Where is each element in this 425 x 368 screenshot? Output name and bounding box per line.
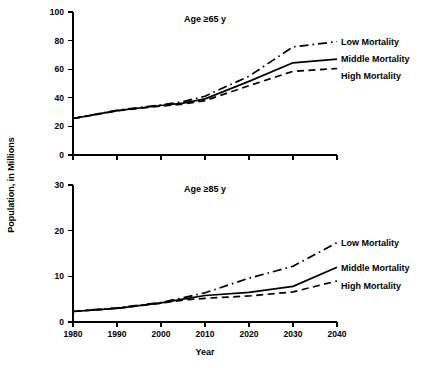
series-line-middle-mortality-top xyxy=(73,59,337,118)
figure-container: Population, in Millions Age ≥65 y 0 20 4… xyxy=(0,0,425,368)
panel-age-65: Age ≥65 y 0 20 40 60 80 100 xyxy=(50,7,410,160)
x-ticks-top xyxy=(73,155,337,160)
series-label-high-mortality-bottom: High Mortality xyxy=(341,281,401,291)
x-tick-label: 1980 xyxy=(64,329,83,339)
series-line-high-mortality-top xyxy=(73,69,337,119)
panel-title-age-85: Age ≥85 y xyxy=(184,184,226,194)
x-tick-label: 2030 xyxy=(284,329,303,339)
y-axis-title: Population, in Millions xyxy=(6,137,16,233)
y-tick-label: 100 xyxy=(50,7,64,17)
x-tick-label: 1990 xyxy=(108,329,127,339)
two-panel-line-chart: Population, in Millions Age ≥65 y 0 20 4… xyxy=(0,0,425,368)
series-label-high-mortality-top: High Mortality xyxy=(341,71,401,81)
y-tick-label: 30 xyxy=(55,180,65,190)
x-axis-title: Year xyxy=(195,347,215,357)
y-tick-labels-top: 0 20 40 60 80 100 xyxy=(50,7,64,160)
y-ticks-bottom xyxy=(68,185,73,322)
x-tick-label: 2010 xyxy=(196,329,215,339)
y-tick-label: 20 xyxy=(55,121,65,131)
x-ticks-bottom xyxy=(73,322,337,327)
y-tick-label: 40 xyxy=(55,93,65,103)
y-tick-label: 60 xyxy=(55,64,65,74)
panel-age-85: Age ≥85 y 0 10 20 30 xyxy=(55,180,410,357)
series-label-middle-mortality-top: Middle Mortality xyxy=(341,54,410,64)
series-label-middle-mortality-bottom: Middle Mortality xyxy=(341,263,410,273)
y-tick-labels-bottom: 0 10 20 30 xyxy=(55,180,65,327)
x-tick-label: 2020 xyxy=(240,329,259,339)
series-label-low-mortality-top: Low Mortality xyxy=(341,37,399,47)
x-tick-label: 2000 xyxy=(152,329,171,339)
series-line-middle-mortality-bottom xyxy=(73,267,337,311)
y-tick-label: 10 xyxy=(55,271,65,281)
y-tick-label: 80 xyxy=(55,36,65,46)
panel-title-age-65: Age ≥65 y xyxy=(184,14,226,24)
series-line-low-mortality-top xyxy=(73,42,337,119)
x-tick-labels-bottom: 1980 1990 2000 2010 2020 2030 2040 xyxy=(64,329,347,339)
y-tick-label: 0 xyxy=(59,150,64,160)
series-label-low-mortality-bottom: Low Mortality xyxy=(341,238,399,248)
y-ticks-top xyxy=(68,12,73,155)
y-tick-label: 20 xyxy=(55,226,65,236)
series-line-low-mortality-bottom xyxy=(73,243,337,312)
y-tick-label: 0 xyxy=(59,317,64,327)
x-tick-label: 2040 xyxy=(328,329,347,339)
